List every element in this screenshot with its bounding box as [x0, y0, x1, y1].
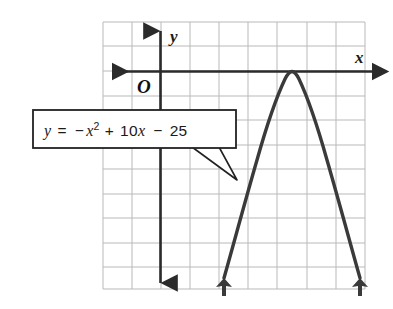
equation-plus: +: [105, 122, 114, 139]
origin-label: O: [137, 76, 151, 97]
equation-exponent: 2: [94, 120, 100, 132]
x-axis-label: x: [354, 48, 364, 67]
equation-linear-var: x: [137, 122, 145, 139]
equation-coefficient: 10: [120, 122, 138, 139]
y-axis-label: y: [168, 27, 178, 46]
equation-equals: =: [57, 122, 66, 139]
parabola-graph: y x O y=−x2+10x−25: [0, 0, 393, 309]
figure-container: y x O y=−x2+10x−25: [0, 0, 393, 309]
equation-minus: −: [75, 122, 84, 139]
equation-minus2: −: [153, 122, 162, 139]
equation-constant: 25: [170, 122, 188, 139]
equation-lhs: y: [42, 122, 52, 140]
equation-base: x: [85, 122, 93, 139]
